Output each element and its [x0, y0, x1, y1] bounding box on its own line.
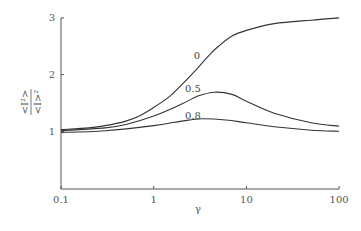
- x-tick-label: 10: [240, 194, 253, 205]
- chart: 123 0.1110100 00.50.8 γ <I²> <I>²: [0, 0, 361, 231]
- x-axis-label: γ: [195, 203, 201, 214]
- y-tick-label: 3: [49, 12, 55, 23]
- curve-label: 0.5: [185, 83, 201, 94]
- axes: [61, 18, 339, 189]
- y-ticks: 123: [49, 12, 64, 136]
- curve-label: 0: [194, 50, 200, 61]
- y-axis-label: <I²> <I>²: [19, 89, 43, 115]
- x-tick-label: 0.1: [53, 194, 69, 205]
- y-label-denominator: <I>²: [32, 90, 43, 115]
- y-tick-label: 1: [49, 126, 55, 137]
- y-label-numerator: <I²>: [19, 90, 30, 115]
- x-tick-label: 1: [151, 194, 157, 205]
- x-tick-label: 100: [330, 194, 349, 205]
- curve-labels: 00.50.8: [185, 50, 201, 121]
- curve-label: 0.8: [185, 110, 201, 121]
- y-tick-label: 2: [49, 69, 55, 80]
